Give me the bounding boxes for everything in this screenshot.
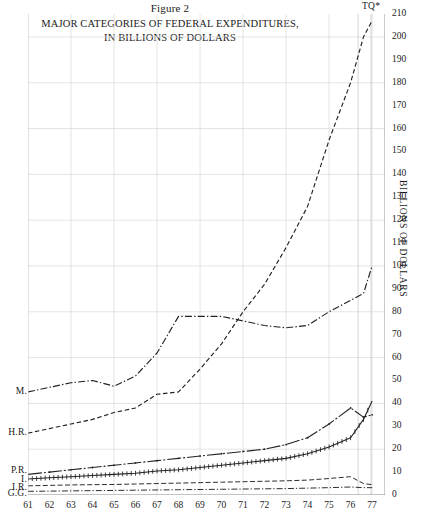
y-tick-10: 10 <box>392 466 416 476</box>
y-tick-180: 180 <box>392 77 416 87</box>
tq-marker-label: TQ* <box>362 1 380 11</box>
x-tick-66: 66 <box>126 500 146 510</box>
y-tick-140: 140 <box>392 168 416 178</box>
y-tick-210: 210 <box>392 8 416 18</box>
y-tick-110: 110 <box>392 237 416 247</box>
x-tick-63: 63 <box>61 500 81 510</box>
y-tick-120: 120 <box>392 214 416 224</box>
y-tick-200: 200 <box>392 31 416 41</box>
series-label-gg: G.G. <box>8 488 27 498</box>
chart-svg <box>28 14 385 495</box>
x-tick-77: 77 <box>362 500 382 510</box>
y-tick-60: 60 <box>392 352 416 362</box>
x-tick-68: 68 <box>169 500 189 510</box>
plot-area <box>28 14 385 495</box>
y-tick-100: 100 <box>392 260 416 270</box>
figure-number: Figure 2 <box>0 2 340 14</box>
x-tick-64: 64 <box>83 500 103 510</box>
series-marks-i <box>28 408 368 482</box>
y-tick-80: 80 <box>392 306 416 316</box>
x-tick-65: 65 <box>104 500 124 510</box>
y-tick-70: 70 <box>392 329 416 339</box>
y-tick-190: 190 <box>392 54 416 64</box>
x-tick-74: 74 <box>298 500 318 510</box>
y-tick-30: 30 <box>392 420 416 430</box>
x-tick-62: 62 <box>40 500 60 510</box>
y-tick-50: 50 <box>392 374 416 384</box>
y-tick-0: 0 <box>392 489 416 499</box>
series-label-m: M. <box>16 386 27 396</box>
y-tick-90: 90 <box>392 283 416 293</box>
x-tick-70: 70 <box>212 500 232 510</box>
x-tick-71: 71 <box>233 500 253 510</box>
series-lines <box>28 21 373 491</box>
x-tick-67: 67 <box>147 500 167 510</box>
series-label-hr: H.R. <box>8 427 27 437</box>
x-tick-73: 73 <box>276 500 296 510</box>
figure-container: Figure 2 MAJOR CATEGORIES OF FEDERAL EXP… <box>0 0 433 523</box>
x-tick-76: 76 <box>341 500 361 510</box>
y-tick-160: 160 <box>392 123 416 133</box>
y-tick-40: 40 <box>392 397 416 407</box>
x-tick-72: 72 <box>255 500 275 510</box>
series-marks-pr <box>28 407 373 475</box>
y-tick-170: 170 <box>392 100 416 110</box>
y-tick-150: 150 <box>392 145 416 155</box>
y-axis-tick-labels: 0102030405060708090100110120130140150160… <box>390 0 416 523</box>
x-axis-tick-labels: 6162636465666768697071727374757677 <box>0 500 433 520</box>
y-tick-20: 20 <box>392 443 416 453</box>
tq-band <box>358 14 371 495</box>
x-tick-75: 75 <box>319 500 339 510</box>
x-tick-69: 69 <box>190 500 210 510</box>
y-tick-130: 130 <box>392 191 416 201</box>
series-label-group: M.H.R.P.R.I.I.R.G.G. <box>0 0 28 523</box>
